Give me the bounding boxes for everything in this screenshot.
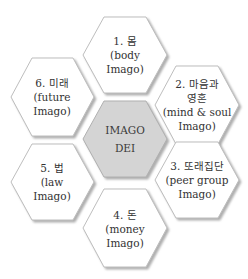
label-line: (mind & soul <box>163 105 232 119</box>
label-line: Imago) <box>165 187 228 201</box>
label-law: 5. 법 (law Imago) <box>33 161 71 203</box>
label-mind-soul: 2. 마음과 영혼 (mind & soul Imago) <box>163 77 232 133</box>
center-title-line1: IMAGO <box>105 121 144 139</box>
label-line: (law <box>33 175 71 189</box>
label-money: 4. 돈 (money Imago) <box>105 208 144 250</box>
center-title-line2: DEI <box>105 139 144 157</box>
label-line: Imago) <box>33 104 71 118</box>
label-line: 2. 마음과 <box>163 77 232 91</box>
label-line: Imago) <box>106 62 144 76</box>
label-line: (peer group <box>165 173 228 187</box>
label-line: 6. 미래 <box>33 76 71 90</box>
label-future: 6. 미래 (future Imago) <box>33 76 71 118</box>
label-peer-group: 3. 또래집단 (peer group Imago) <box>165 159 228 201</box>
label-line: (future <box>33 90 71 104</box>
label-line: Imago) <box>163 119 232 133</box>
label-line: 5. 법 <box>33 161 71 175</box>
label-line: 1. 몸 <box>106 34 144 48</box>
label-line: 영혼 <box>163 91 232 105</box>
label-line: 4. 돈 <box>105 208 144 222</box>
label-line: Imago) <box>105 236 144 250</box>
label-line: (body <box>106 48 144 62</box>
label-line: Imago) <box>33 189 71 203</box>
label-line: 3. 또래집단 <box>165 159 228 173</box>
label-body: 1. 몸 (body Imago) <box>106 34 144 76</box>
label-center: IMAGO DEI <box>105 121 144 157</box>
label-line: (money <box>105 222 144 236</box>
